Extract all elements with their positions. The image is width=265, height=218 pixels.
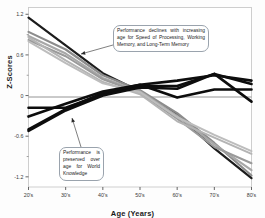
y-tick-label: -0.6 [14, 133, 23, 139]
x-tick-label: 60's [172, 192, 182, 198]
annotation-box-declining: Performance declines with increasing age… [113, 25, 209, 52]
y-axis-title-text: Z-Scores [5, 55, 14, 89]
annotation-box-preserved: Performance is preserved over age for Wo… [59, 147, 104, 181]
y-tick-label: -1.2 [14, 174, 23, 180]
x-tick-label: 30's [61, 192, 71, 198]
x-axis-title: Age (Years) [0, 202, 265, 218]
y-axis-title: Z-Scores [0, 42, 18, 102]
annotation-text-declining: Performance declines with increasing age… [117, 28, 205, 49]
x-tick-label: 80's [247, 192, 257, 198]
annotation-text-preserved: Performance is preserved over age for Wo… [63, 150, 100, 178]
figure-panel: 1.20.60-0.6-1.2 20's30's40's50's60's70's… [0, 0, 265, 218]
x-axis-ticks: 20's30's40's50's60's70's80's [24, 187, 257, 198]
x-tick-label: 50's [135, 192, 145, 198]
y-tick-label: 0 [21, 93, 24, 99]
x-tick-label: 20's [24, 192, 34, 198]
y-tick-label: 1.2 [16, 11, 23, 17]
x-axis-title-text: Age (Years) [111, 209, 154, 218]
x-tick-label: 70's [210, 192, 220, 198]
x-tick-label: 40's [98, 192, 108, 198]
